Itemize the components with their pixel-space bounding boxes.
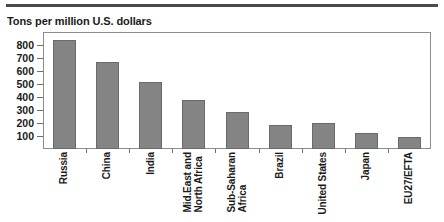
chart-title: Tons per million U.S. dollars (7, 15, 152, 27)
bar (53, 40, 76, 149)
x-category-label-line: Russia (59, 152, 70, 184)
bar (355, 133, 378, 149)
x-category-label-line: China (102, 152, 113, 179)
x-category-label: EU27/EFTA (404, 152, 444, 222)
x-category-label-line: Sub-Saharan (227, 152, 238, 213)
y-tick-label: 400 (0, 92, 34, 103)
x-category-label: Brazil (275, 152, 302, 222)
x-category-label: Japan (361, 152, 389, 222)
bar-series (43, 32, 431, 149)
bar (182, 100, 205, 149)
bar (398, 137, 421, 149)
bar (96, 62, 119, 149)
y-tick-label: 100 (0, 131, 34, 142)
bar (269, 125, 292, 149)
x-category-label-line: Africa (237, 152, 248, 213)
x-category-label-line: EU27/EFTA (404, 152, 415, 204)
bar (312, 123, 335, 149)
y-tick-label: 700 (0, 53, 34, 64)
y-tick-label: 500 (0, 79, 34, 90)
x-category-label: India (146, 152, 169, 222)
y-tick-label: 600 (0, 66, 34, 77)
x-category-label: China (102, 152, 129, 222)
top-divider-rule (6, 4, 438, 7)
bar (139, 82, 162, 149)
y-tick-label: 300 (0, 105, 34, 116)
y-tick-label: 200 (0, 118, 34, 129)
x-category-label-line: United States (318, 152, 329, 215)
x-category-label: Russia (59, 152, 91, 222)
x-category-label-line: India (146, 152, 157, 175)
x-category-label-line: Brazil (275, 152, 286, 179)
bar (226, 112, 249, 149)
y-tick-label: 800 (0, 40, 34, 51)
x-axis-category-labels: RussiaChinaIndiaMid.East andNorth Africa… (43, 152, 431, 222)
x-category-label-line: North Africa (194, 152, 205, 212)
y-axis-tick-labels: 800700600500400300200100 (0, 32, 34, 149)
x-category-label-line: Japan (361, 152, 372, 180)
